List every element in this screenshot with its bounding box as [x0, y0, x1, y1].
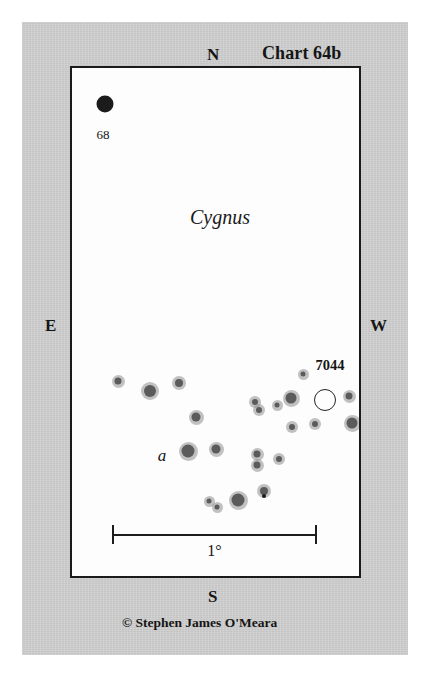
- star-marker: [97, 96, 114, 113]
- star-label-a: a: [158, 447, 167, 464]
- star-marker: [215, 505, 220, 510]
- compass-label-east: E: [45, 317, 56, 334]
- star-marker: [312, 421, 318, 427]
- star-field-plot: Cygnus 1° 68a7044: [72, 68, 359, 576]
- star-marker: [115, 378, 122, 385]
- star-marker: [254, 462, 261, 469]
- compass-label-south: S: [208, 588, 217, 605]
- chart-title: Chart 64b: [262, 44, 341, 62]
- scale-bar-label: 1°: [207, 542, 221, 560]
- star-marker: [207, 499, 212, 504]
- star-marker: [346, 393, 353, 400]
- star-chart-figure: N S E W Chart 64b © Stephen James O'Mear…: [0, 0, 429, 696]
- compass-label-west: W: [370, 317, 387, 334]
- star-marker: [262, 494, 266, 498]
- star-marker: [254, 451, 261, 458]
- star-marker: [175, 379, 183, 387]
- scale-bar-rule: [112, 534, 317, 536]
- star-label-68: 68: [97, 128, 110, 141]
- cluster-label-7044: 7044: [316, 358, 345, 373]
- copyright-credit: © Stephen James O'Meara: [122, 616, 277, 630]
- star-marker: [212, 445, 221, 454]
- star-field-box: Cygnus 1° 68a7044: [70, 66, 361, 578]
- star-marker: [232, 494, 245, 507]
- star-marker: [301, 372, 306, 377]
- star-marker: [275, 403, 280, 408]
- star-marker: [276, 456, 282, 462]
- scale-bar-tick-left: [112, 525, 114, 544]
- scale-bar-tick-right: [315, 525, 317, 544]
- constellation-name-label: Cygnus: [190, 206, 250, 229]
- star-marker: [286, 393, 297, 404]
- star-marker: [289, 424, 295, 430]
- star-marker: [256, 407, 262, 413]
- open-cluster-symbol: [314, 389, 336, 411]
- star-marker: [347, 418, 358, 429]
- scale-bar: 1°: [112, 534, 317, 535]
- star-marker: [192, 413, 201, 422]
- star-marker: [144, 385, 156, 397]
- star-marker: [182, 445, 195, 458]
- compass-label-north: N: [207, 46, 219, 63]
